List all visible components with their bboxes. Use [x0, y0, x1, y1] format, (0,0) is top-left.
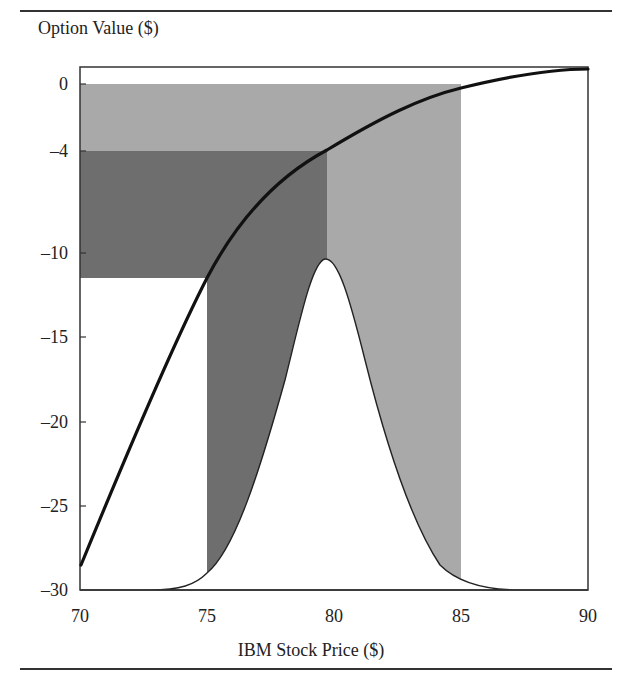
y-tick-minus-4: –4	[49, 141, 68, 161]
y-tick-0: 0	[59, 74, 68, 94]
bottom-rule	[20, 668, 612, 670]
x-axis-label: IBM Stock Price ($)	[0, 640, 622, 661]
x-tick-80: 80	[325, 606, 343, 626]
x-tick-90: 90	[579, 606, 597, 626]
y-tick-minus-15: –15	[40, 327, 68, 347]
y-tick-minus-25: –25	[40, 496, 68, 516]
distribution-curve	[80, 259, 588, 590]
y-tick-minus-30: –30	[40, 580, 68, 600]
x-tick-70: 70	[71, 606, 89, 626]
y-tick-minus-10: –10	[40, 243, 68, 263]
y-tick-minus-20: –20	[40, 412, 68, 432]
x-axis-tick-labels: 70 75 80 85 90	[71, 606, 597, 626]
chart-plot: 0 –4 –10 –15 –20 –25 –30 70 75 80 85 90	[0, 0, 622, 690]
x-tick-75: 75	[198, 606, 216, 626]
y-axis-tick-labels: 0 –4 –10 –15 –20 –25 –30	[40, 74, 68, 600]
x-tick-85: 85	[452, 606, 470, 626]
